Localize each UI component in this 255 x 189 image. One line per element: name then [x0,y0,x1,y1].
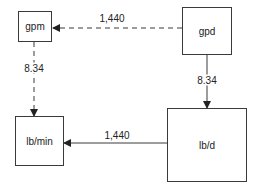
node-gpd-label: gpd [199,26,216,37]
node-lb-per-day: lb/d [167,108,247,182]
node-gpm-label: gpm [25,21,44,32]
node-lb-per-day-label: lb/d [199,140,215,151]
edge-label-gpd-lbd: 8.34 [196,75,217,86]
edge-label-lbd-lbmin: 1,440 [103,130,130,141]
node-lb-per-min: lb/min [15,116,64,166]
conversion-diagram: gpm gpd lb/min lb/d 1,440 8.34 8.34 1,44… [0,0,255,189]
node-lb-per-min-label: lb/min [26,136,53,147]
node-gpm: gpm [18,11,52,42]
edge-label-gpm-lbmin: 8.34 [23,63,44,74]
edge-label-gpd-gpm: 1,440 [98,13,125,24]
node-gpd: gpd [182,7,232,55]
